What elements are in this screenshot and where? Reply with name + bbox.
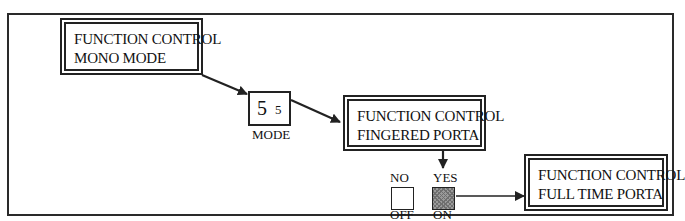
full-time-porta-box: FUNCTION CONTROL FULL TIME PORTA bbox=[524, 154, 668, 211]
full-time-porta-line1: FUNCTION CONTROL bbox=[538, 166, 662, 185]
full-time-porta-line2: FULL TIME PORTA bbox=[538, 185, 662, 204]
yes-label: YES bbox=[433, 171, 458, 185]
off-label: OFF bbox=[390, 208, 414, 221]
mode-large-digit: 5 bbox=[257, 97, 267, 119]
mono-mode-line1: FUNCTION CONTROL bbox=[74, 30, 197, 49]
mode-label: MODE bbox=[252, 128, 290, 142]
mono-mode-box: FUNCTION CONTROL MONO MODE bbox=[60, 18, 203, 75]
fingered-porta-line1: FUNCTION CONTROL bbox=[357, 107, 480, 126]
mode-small-digit: 5 bbox=[275, 103, 282, 117]
on-label: ON bbox=[433, 208, 452, 221]
mode-display: 5 5 bbox=[248, 91, 291, 126]
arrow-mode-to-fingered bbox=[291, 100, 340, 122]
fingered-porta-box: FUNCTION CONTROL FINGERED PORTA bbox=[343, 95, 486, 151]
fingered-porta-line2: FINGERED PORTA bbox=[357, 126, 480, 145]
arrow-mono-to-mode bbox=[202, 75, 247, 94]
no-label: NO bbox=[390, 171, 409, 185]
mono-mode-line2: MONO MODE bbox=[74, 49, 197, 68]
